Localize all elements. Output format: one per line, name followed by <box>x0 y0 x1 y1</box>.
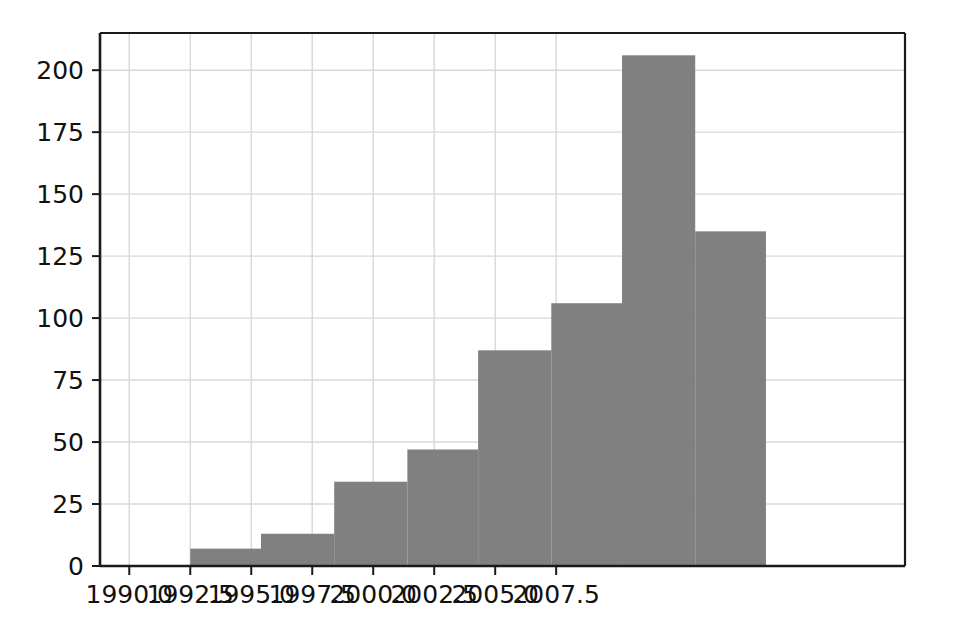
ytick-label: 100 <box>36 304 84 333</box>
ytick-label: 25 <box>52 490 84 519</box>
histogram-bar <box>551 303 622 566</box>
histogram-bar <box>478 350 551 566</box>
plot-canvas: 02550751001251501752001990.01992.51995.0… <box>0 0 956 641</box>
ytick-label: 150 <box>36 180 84 209</box>
histogram-bar <box>190 549 261 566</box>
ytick-label: 175 <box>36 118 84 147</box>
histogram-bar <box>261 534 334 566</box>
histogram-bar <box>407 449 478 566</box>
ytick-label: 50 <box>52 428 84 457</box>
histogram-bar <box>334 482 407 566</box>
ytick-label: 125 <box>36 242 84 271</box>
ytick-label: 200 <box>36 56 84 85</box>
histogram-figure: 02550751001251501752001990.01992.51995.0… <box>0 0 956 641</box>
xtick-label: 2007.5 <box>512 580 599 609</box>
ytick-label: 75 <box>52 366 84 395</box>
ytick-label: 0 <box>68 552 84 581</box>
histogram-bar <box>695 231 766 566</box>
histogram-bar <box>622 55 695 566</box>
